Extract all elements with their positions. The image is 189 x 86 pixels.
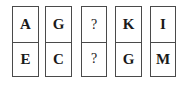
card-1: A E (12, 6, 39, 77)
card-4-top: K (116, 7, 141, 43)
card-4-bottom: G (116, 42, 141, 76)
card-2-top: G (46, 7, 71, 43)
card-1-bottom: E (13, 42, 38, 76)
card-3-top-unknown: ? (82, 7, 106, 43)
card-5-bottom: M (151, 42, 175, 76)
card-3: ? ? (81, 6, 107, 77)
card-2: G C (45, 6, 72, 77)
card-1-top: A (13, 7, 38, 43)
card-5-top: I (151, 7, 175, 43)
card-3-bottom-unknown: ? (82, 42, 106, 76)
card-5: I M (150, 6, 176, 77)
card-4: K G (115, 6, 142, 77)
card-2-bottom: C (46, 42, 71, 76)
